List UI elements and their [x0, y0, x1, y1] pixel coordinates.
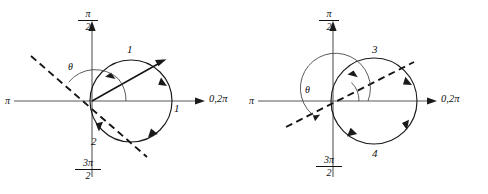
left-intersection-label-1: 1 [174, 103, 180, 114]
left-dashed-line [31, 56, 147, 157]
left-arc-label-2: 2 [91, 136, 97, 147]
left-panel-group [14, 21, 205, 177]
right-x-axis-arrowhead [427, 97, 437, 104]
right-axis-label-3pi-over-2: 3π 2 [316, 155, 342, 178]
left-axis-label-pi: π [5, 96, 10, 106]
right-circle-arrow-lower-right [402, 120, 409, 130]
left-solid-ray [92, 63, 161, 102]
left-x-axis-arrowhead [195, 97, 205, 104]
right-circle-arrow-bottom [347, 128, 357, 137]
polar-diagrams-svg [0, 0, 488, 194]
right-axis-label-zero-two-pi: 0,2π [441, 94, 459, 105]
right-arc-label-4: 4 [372, 148, 378, 159]
right-theta-label: θ [305, 85, 310, 95]
right-inner-angle-arc [352, 83, 360, 102]
right-axis-label-pi-over-2: π 2 [319, 9, 339, 32]
left-axis-label-pi-over-2: π 2 [78, 9, 98, 32]
figure-root: π 2 3π 2 π 0,2π θ 1 2 1 π 2 3π 2 π 0,2π … [0, 0, 488, 194]
right-panel-group [258, 21, 437, 177]
left-axis-label-3pi-over-2: 3π 2 [75, 158, 101, 181]
right-axis-label-pi: π [249, 96, 254, 106]
left-theta-label: θ [68, 62, 73, 72]
left-arc-label-1: 1 [127, 44, 133, 55]
right-arc-label-3: 3 [372, 44, 378, 55]
right-theta-arc [300, 53, 370, 117]
left-axis-label-zero-two-pi: 0,2π [209, 94, 227, 105]
right-circle-arrow-top [348, 71, 358, 78]
